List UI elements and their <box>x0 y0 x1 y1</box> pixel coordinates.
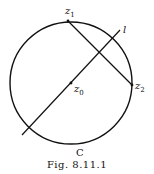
label-z1: z1 <box>65 6 75 19</box>
point-z0 <box>70 82 73 85</box>
label-c: C <box>76 148 84 158</box>
label-z2: z2 <box>135 81 145 94</box>
label-z0: z0 <box>74 84 84 97</box>
point-z1 <box>67 20 70 23</box>
point-z2 <box>131 84 134 87</box>
label-z0-sub: 0 <box>79 89 83 97</box>
label-z2-sub: 2 <box>140 86 144 94</box>
figure-caption: Fig. 8.11.1 <box>0 159 154 170</box>
label-z1-sub: 1 <box>70 11 74 19</box>
label-l: l <box>123 25 126 35</box>
